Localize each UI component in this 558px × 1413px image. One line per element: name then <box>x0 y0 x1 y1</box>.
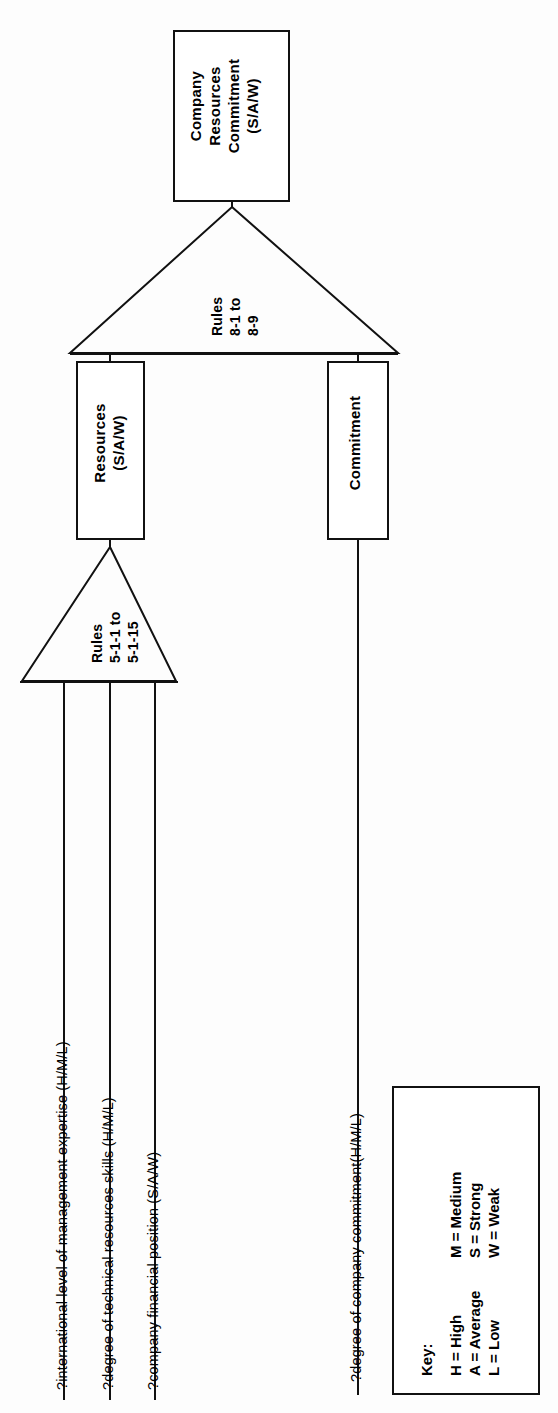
node-resources-label: Resources (S/A/W) <box>90 355 128 531</box>
key-entry-h-high: H = High <box>447 1315 464 1376</box>
key-entry-m-medium: M = Medium <box>447 1172 464 1258</box>
rule-triangle-lower-label: Rules 5-1-1 to 5-1-15 <box>88 612 142 663</box>
key-entry-l-low: L = Low <box>485 1320 502 1376</box>
key-title: Key: <box>418 1343 435 1376</box>
key-entry-w-weak: W = Weak <box>485 1188 502 1258</box>
rule-triangle-upper-label: Rules 8-1 to 8-9 <box>208 297 262 336</box>
question-company-financial-position[interactable]: ?company financial position (S/A/W) <box>145 1152 161 1390</box>
question-technical-resources-skills[interactable]: ?degree of technical resources skills (H… <box>100 1097 116 1390</box>
diagram-canvas: Company Resources Commitment (S/A/W) Rul… <box>0 0 558 1413</box>
question-company-commitment[interactable]: ?degree of company commitment(H/M/L) <box>348 1113 364 1382</box>
key-legend-box: Key: H = High A = Average L = Low M = Me… <box>392 1086 540 1395</box>
key-entry-s-strong: S = Strong <box>466 1183 483 1258</box>
key-entry-a-average: A = Average <box>466 1291 483 1376</box>
node-company-resources-commitment-label: Company Resources Commitment (S/A/W) <box>186 22 262 190</box>
question-management-expertise[interactable]: ?international level of management exper… <box>54 1041 70 1390</box>
node-commitment-label: Commitment <box>345 355 364 531</box>
